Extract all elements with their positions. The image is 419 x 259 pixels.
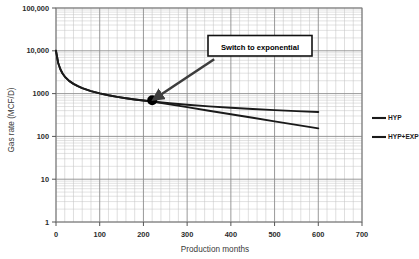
x-axis-tick-label: 500 (268, 230, 280, 239)
y-axis-tick-label: 1 (45, 218, 49, 227)
x-axis-title: Production months (181, 245, 249, 254)
x-axis-tick-label: 300 (181, 230, 193, 239)
annotation-text: Switch to exponential (221, 43, 299, 52)
legend-label-hyp-plus-exp: HYP+EXP (388, 133, 419, 140)
x-axis-tick-label: 600 (312, 230, 324, 239)
annotation-callout: Switch to exponential (208, 36, 312, 57)
y-axis-tick-label: 1000 (33, 89, 49, 98)
x-axis-tick-label: 400 (225, 230, 237, 239)
y-axis-tick-label: 100,000 (22, 4, 49, 13)
y-axis-tick-label: 10 (41, 175, 49, 184)
x-axis-tick-label: 0 (54, 230, 58, 239)
chart-canvas: 110100100010,000100,000 0100200300400500… (0, 0, 419, 259)
y-axis-title: Gas rate (MCF/D) (7, 87, 16, 152)
gas-rate-decline-chart: 110100100010,000100,000 0100200300400500… (0, 0, 419, 259)
x-axis-tick-label: 200 (137, 230, 149, 239)
y-axis-tick-label: 10,000 (26, 46, 49, 55)
y-axis-tick-label: 100 (37, 132, 49, 141)
legend-label-hyp: HYP (388, 114, 402, 121)
x-axis-tick-label: 700 (356, 230, 368, 239)
x-axis-tick-label: 100 (94, 230, 106, 239)
switch-point-marker (147, 95, 157, 105)
